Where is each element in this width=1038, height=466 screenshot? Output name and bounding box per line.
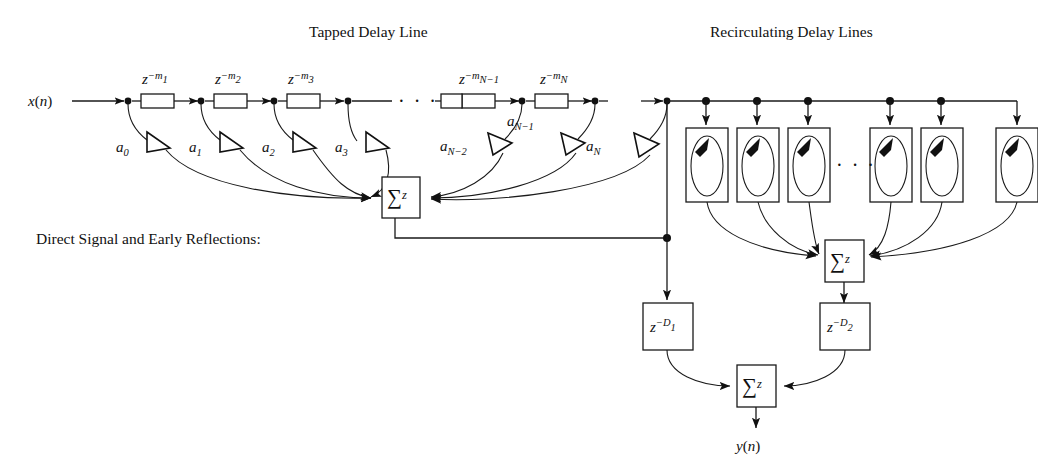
delay-block-2-label: z−m2 bbox=[214, 70, 242, 87]
gain-label-aN: aN bbox=[586, 138, 602, 157]
comb-filter-6[interactable] bbox=[996, 128, 1038, 202]
comb-filter-2[interactable] bbox=[737, 128, 779, 202]
comb-filter-3[interactable] bbox=[788, 128, 830, 202]
delay-block-1-label: z−m1 bbox=[141, 70, 168, 87]
comb-filter-ellipsis: · · · bbox=[836, 154, 876, 176]
comb-filter-1[interactable] bbox=[686, 128, 728, 202]
gain-triangle-aN[interactable] bbox=[634, 133, 659, 157]
svg-text:x(n): x(n) bbox=[27, 93, 52, 110]
gain-triangle-aN-1[interactable] bbox=[561, 133, 585, 155]
tap-node-1 bbox=[198, 98, 205, 105]
input-signal-label: x(n) bbox=[27, 93, 52, 110]
delay-block-n-minus-1-label: z−mN−1 bbox=[458, 70, 499, 87]
gain-label-a2: a2 bbox=[262, 139, 276, 158]
tap-node-3 bbox=[345, 98, 352, 105]
delay-block-d1[interactable]: z−D1 bbox=[643, 303, 693, 350]
delay-block-n-minus-1[interactable]: z−mN−1 bbox=[458, 70, 499, 108]
tap-node-n-minus-2 bbox=[519, 98, 526, 105]
summer-recirculating-sigma: ∑ bbox=[830, 249, 845, 273]
svg-text:y(n): y(n) bbox=[734, 438, 760, 455]
gain-label-a1: a1 bbox=[189, 139, 202, 158]
tap-node-2 bbox=[271, 98, 278, 105]
comb-filter-5[interactable] bbox=[921, 128, 963, 202]
tap-node-n-minus-1 bbox=[592, 98, 599, 105]
summer-tapped-delay[interactable]: ∑z bbox=[382, 177, 420, 218]
reverberator-diagram: Tapped Delay Line Recirculating Delay Li… bbox=[0, 0, 1038, 466]
heading-tapped-delay-line: Tapped Delay Line bbox=[309, 23, 428, 40]
gain-triangle-a3[interactable] bbox=[366, 132, 389, 152]
gain-label-a3: a3 bbox=[335, 139, 348, 158]
summer-output-sigma: ∑ bbox=[742, 374, 757, 398]
output-signal-label: y(n) bbox=[734, 438, 760, 455]
delay-block-1[interactable]: z−m1 bbox=[141, 70, 174, 108]
gain-triangle-a2[interactable] bbox=[293, 132, 316, 152]
summer-sigma-symbol: ∑ bbox=[387, 185, 402, 209]
summer-recirculating[interactable]: ∑z bbox=[825, 240, 864, 303]
summer-output[interactable]: ∑z bbox=[737, 365, 776, 428]
delay-block-3[interactable]: z−m3 bbox=[287, 70, 320, 108]
heading-recirculating-delay-lines: Recirculating Delay Lines bbox=[710, 23, 873, 40]
summer-to-bus-wire bbox=[395, 218, 671, 242]
delay-block-continuation bbox=[435, 94, 462, 108]
caption-direct-signal: Direct Signal and Early Reflections: bbox=[36, 230, 261, 247]
delay-block-2[interactable]: z−m2 bbox=[214, 70, 247, 108]
gain-label-aN-2: aN−2 bbox=[440, 138, 468, 157]
comb-filter-4[interactable] bbox=[870, 128, 912, 202]
gain-triangle-aN-2[interactable] bbox=[488, 133, 512, 155]
tapped-delay-ellipsis: · · · bbox=[398, 90, 438, 112]
gain-triangle-a0[interactable] bbox=[147, 132, 170, 152]
delay-block-n[interactable]: z−mN bbox=[535, 70, 569, 108]
delay-block-3-label: z−m3 bbox=[287, 70, 314, 87]
delay-block-d2[interactable]: z−D2 bbox=[820, 303, 870, 350]
gain-triangle-a1[interactable] bbox=[220, 132, 243, 152]
gain-label-a0: a0 bbox=[116, 139, 130, 158]
delay-block-n-label: z−mN bbox=[539, 70, 569, 87]
tap-node-0 bbox=[125, 98, 132, 105]
